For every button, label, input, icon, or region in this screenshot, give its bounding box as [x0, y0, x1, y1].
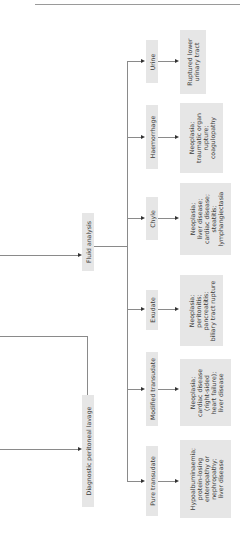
result-line-haemorrhage	[158, 137, 175, 138]
result-haemorrhage: Neoplasia; traumatic organ rupture; coag…	[180, 103, 223, 173]
dpl-bracket-horizontal	[0, 336, 88, 337]
dpl-node: Diagnostic peritoneal lavage	[82, 395, 94, 507]
arrow-icon	[141, 479, 145, 483]
arrow-icon	[175, 59, 179, 63]
result-line-exudate	[158, 309, 175, 310]
main-trunk-line	[127, 61, 128, 482]
category-modified-transudate: Modified transudate	[146, 352, 158, 426]
dpl-input-line	[0, 449, 78, 450]
fluid-analysis-label: Fluid analysis	[85, 221, 92, 263]
result-line-chyle	[158, 218, 175, 219]
result-text: Neoplasia; cardiac disease (right-sided …	[188, 369, 223, 417]
result-line-modified-transudate	[158, 389, 175, 390]
result-modified-transudate: Neoplasia; cardiac disease (right-sided …	[180, 359, 231, 426]
arrow-icon	[141, 307, 145, 311]
branch-line-haemorrhage	[127, 137, 142, 138]
result-exudate: Neoplasia; peritonitis; pancreatitis; bi…	[180, 275, 223, 346]
category-chyle: Chyle	[146, 197, 158, 240]
result-pure-transudate: Hypoalbuminaemia; protein-losing enterop…	[180, 440, 231, 518]
result-chyle: Neoplasia; liver disease; cardiac diseas…	[180, 183, 231, 255]
arrow-icon	[175, 387, 179, 391]
arrow-icon	[141, 59, 145, 63]
category-label: Urine	[149, 53, 156, 70]
arrow-icon	[175, 307, 179, 311]
dpl-label: Diagnostic peritoneal lavage	[85, 407, 92, 496]
arrow-icon	[175, 216, 179, 220]
result-line-pure-transudate	[158, 481, 175, 482]
result-text: Ruptured lower urinary tract	[186, 38, 200, 85]
result-urine: Ruptured lower urinary tract	[180, 30, 206, 94]
arrow-icon	[141, 135, 145, 139]
result-text: Neoplasia; peritonitis; pancreatitis; bi…	[188, 280, 216, 341]
branch-line-urine	[127, 61, 142, 62]
fluid-analysis-node: Fluid analysis	[82, 213, 94, 271]
arrow-icon	[175, 135, 179, 139]
dpl-bracket-vertical	[87, 336, 88, 395]
arrow-icon	[141, 216, 145, 220]
category-urine: Urine	[146, 40, 158, 83]
category-pure-transudate: Pure transudate	[146, 446, 158, 516]
category-label: Exudate	[149, 297, 156, 322]
branch-line-exudate	[127, 309, 142, 310]
category-label: Pure transudate	[149, 456, 156, 506]
category-label: Modified transudate	[149, 358, 156, 420]
result-text: Neoplasia; traumatic organ rupture; coag…	[188, 113, 216, 163]
result-text: Hypoalbuminaemia; protein-losing enterop…	[188, 448, 223, 510]
category-exudate: Exudate	[146, 290, 158, 330]
result-line-urine	[158, 61, 175, 62]
fluid-analysis-input-line	[0, 255, 78, 256]
category-haemorrhage: Haemorrhage	[146, 105, 158, 169]
result-text: Neoplasia; liver disease; cardiac diseas…	[188, 192, 223, 247]
category-label: Chyle	[149, 210, 156, 227]
category-label: Haemorrhage	[149, 116, 156, 158]
branch-line-chyle	[127, 218, 142, 219]
fluid-analysis-to-trunk-line	[94, 246, 127, 247]
top-rule	[35, 4, 240, 5]
branch-line-pure-transudate	[127, 481, 142, 482]
branch-line-modified-transudate	[127, 389, 142, 390]
arrow-icon	[141, 387, 145, 391]
arrow-icon	[175, 479, 179, 483]
